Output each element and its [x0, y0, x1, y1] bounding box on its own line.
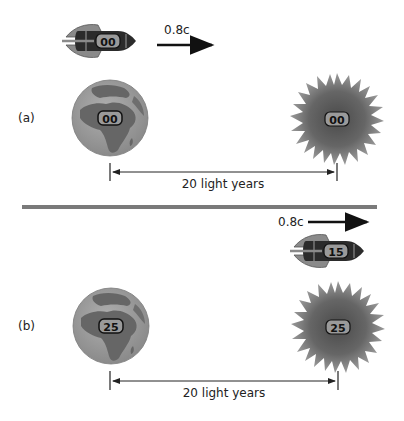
star-a: 00: [290, 73, 384, 165]
distance-label-a: 20 light years: [182, 177, 265, 191]
earth-b-clock: 25: [99, 319, 123, 334]
rocket-a-clock-value: 00: [100, 36, 116, 49]
earth-a: 00: [72, 80, 148, 156]
star-a-clock: 00: [325, 112, 349, 127]
rocket-a-clock: 00: [96, 34, 120, 49]
rocket-b: 15: [290, 235, 364, 268]
star-b: 25: [291, 281, 385, 373]
panel-a: 00 0.8c (a) 00 00: [18, 23, 384, 191]
panel-b: 0.8c 15 (b) 25 25: [18, 215, 385, 400]
panel-divider: [22, 205, 377, 209]
velocity-label-a: 0.8c: [164, 23, 190, 37]
distance-indicator-b: 20 light years: [110, 371, 338, 400]
star-b-clock: 25: [326, 320, 350, 335]
rocket-b-clock-value: 15: [328, 246, 343, 259]
earth-b: 25: [73, 288, 149, 364]
rocket-b-clock: 15: [324, 244, 348, 259]
star-a-clock-value: 00: [329, 114, 345, 127]
star-b-clock-value: 25: [330, 322, 345, 335]
twin-paradox-diagram: 00 0.8c (a) 00 00: [0, 0, 404, 421]
panel-label-b: (b): [18, 319, 35, 333]
distance-indicator-a: 20 light years: [110, 163, 337, 191]
panel-label-a: (a): [18, 111, 35, 125]
earth-b-clock-value: 25: [103, 321, 118, 334]
earth-a-clock-value: 00: [102, 113, 118, 126]
earth-a-clock: 00: [98, 111, 122, 126]
velocity-label-b: 0.8c: [278, 215, 304, 229]
distance-label-b: 20 light years: [183, 386, 266, 400]
rocket-a: 00: [62, 25, 136, 58]
